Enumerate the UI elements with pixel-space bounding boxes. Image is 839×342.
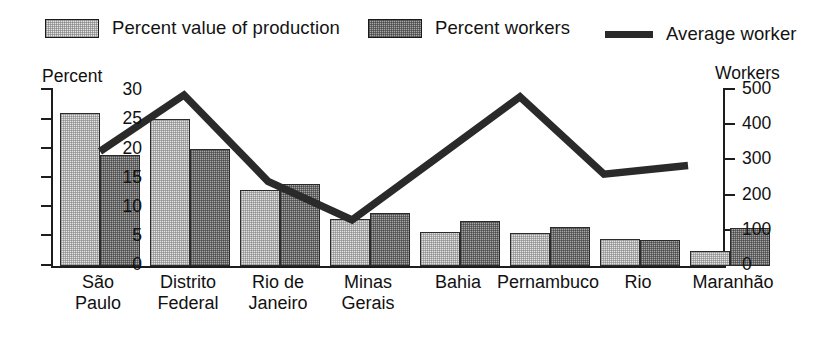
left-tick-10 xyxy=(41,205,52,207)
x-label-maranhao-line1: Maranhão xyxy=(658,272,808,293)
left-tick-20 xyxy=(41,147,52,149)
legend-item-percent-value-of-production: Percent value of production xyxy=(45,17,340,39)
chart-figure: Percent value of production Percent work… xyxy=(0,0,839,342)
right-ticklabel-200: 200 xyxy=(742,184,771,205)
right-tick-400 xyxy=(724,123,735,125)
legend-swatch-light-icon xyxy=(45,19,99,38)
legend-item-average-worker: Average worker xyxy=(605,23,797,45)
right-tick-500 xyxy=(724,88,735,90)
left-ticklabel-30: 30 xyxy=(123,79,142,100)
left-ticklabel-5: 5 xyxy=(132,225,142,246)
average-worker-polyline xyxy=(100,95,688,220)
left-tick-0 xyxy=(41,264,52,266)
right-ticklabel-500: 500 xyxy=(742,78,771,99)
right-ticklabel-100: 100 xyxy=(742,219,771,240)
bottom-axis-line xyxy=(51,266,726,268)
x-label-minas-gerais-line2: Gerais xyxy=(298,293,438,314)
left-ticklabel-0: 0 xyxy=(132,254,142,275)
right-tick-300 xyxy=(724,158,735,160)
legend-line-swatch-icon xyxy=(605,31,653,38)
average-worker-line-series xyxy=(52,88,724,266)
plot-area xyxy=(52,88,724,266)
legend-label-average-worker: Average worker xyxy=(666,23,797,45)
right-tick-200 xyxy=(724,194,735,196)
left-ticklabel-10: 10 xyxy=(123,196,142,217)
legend-item-percent-workers: Percent workers xyxy=(368,17,570,39)
left-tick-5 xyxy=(41,234,52,236)
right-ticklabel-400: 400 xyxy=(742,113,771,134)
legend-label-percent-workers: Percent workers xyxy=(435,17,570,39)
left-axis-title: Percent xyxy=(42,66,102,87)
legend-label-percent-value-of-production: Percent value of production xyxy=(112,17,340,39)
left-tick-15 xyxy=(41,176,52,178)
left-ticklabel-15: 15 xyxy=(123,167,142,188)
x-axis-category-labels: São Paulo Distrito Federal Rio de Janeir… xyxy=(0,270,839,342)
left-tick-30 xyxy=(41,88,52,90)
right-ticklabel-300: 300 xyxy=(742,148,771,169)
left-ticklabel-20: 20 xyxy=(123,138,142,159)
x-label-maranhao: Maranhão xyxy=(658,272,808,293)
right-ticklabel-0: 0 xyxy=(742,254,752,275)
legend-swatch-dark-icon xyxy=(368,19,422,38)
chart-legend: Percent value of production Percent work… xyxy=(0,14,839,48)
left-tick-25 xyxy=(41,118,52,120)
left-ticklabel-25: 25 xyxy=(123,108,142,129)
